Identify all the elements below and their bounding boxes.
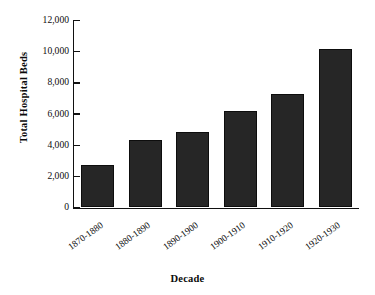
bar: [81, 165, 114, 208]
y-axis-tick: [74, 176, 80, 177]
y-axis-line: [73, 20, 74, 209]
x-axis-category-label: 1920-1930: [296, 220, 342, 257]
bar: [319, 49, 352, 207]
y-axis-tick-label: 4,000: [23, 139, 69, 150]
x-axis-title: Decade: [0, 273, 375, 284]
y-axis-tick-label: 8,000: [23, 76, 69, 87]
x-axis-category-label: 1880-1890: [106, 220, 152, 257]
y-axis-tick: [74, 20, 80, 21]
x-axis-category-label: 1900-1910: [201, 220, 247, 257]
bar: [129, 140, 162, 207]
x-axis-line: [73, 208, 359, 209]
x-axis-category-label: 1890-1900: [153, 220, 199, 257]
x-axis-category-label: 1870-1880: [58, 220, 104, 257]
x-axis-category-label: 1910-1920: [248, 220, 294, 257]
bar: [271, 94, 304, 208]
y-axis-tick: [74, 113, 80, 114]
y-axis-tick-label: 12,000: [23, 14, 69, 25]
bar-chart: Total Hospital Beds 02,0004,0006,0008,00…: [0, 0, 375, 295]
y-axis-tick-label: 0: [23, 201, 69, 212]
y-axis-tick: [74, 145, 80, 146]
y-axis-tick: [74, 82, 80, 83]
y-axis-tick-label: 10,000: [23, 45, 69, 56]
y-axis-tick-label: 6,000: [23, 108, 69, 119]
y-axis-tick-label: 2,000: [23, 170, 69, 181]
bar: [176, 132, 209, 208]
y-axis-tick: [74, 51, 80, 52]
bar: [224, 111, 257, 208]
